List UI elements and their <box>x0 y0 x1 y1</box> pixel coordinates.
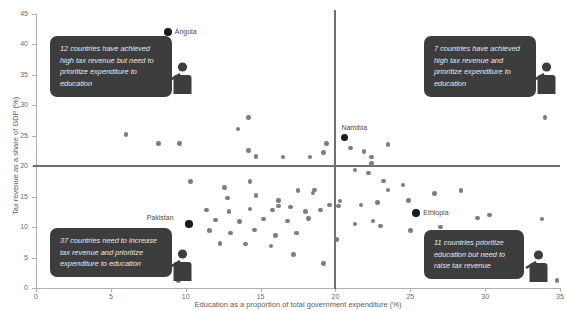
data-point <box>222 185 227 190</box>
point-label-namibia: Namibia <box>341 124 367 131</box>
data-point <box>124 132 129 137</box>
data-point <box>459 188 464 193</box>
x-tick-label: 25 <box>395 293 425 300</box>
data-point <box>381 179 386 184</box>
data-point-angola <box>164 28 172 36</box>
x-tick-mark <box>36 288 37 292</box>
y-tick-label: 0 <box>4 284 28 291</box>
x-axis-line <box>36 288 560 289</box>
data-point <box>228 231 233 236</box>
x-tick-mark <box>560 288 561 292</box>
data-point <box>432 191 437 196</box>
data-point <box>555 278 560 283</box>
data-point <box>281 155 286 160</box>
y-tick-label: 40 <box>4 40 28 47</box>
data-point <box>543 115 548 120</box>
y-tick-label: 35 <box>4 71 28 78</box>
data-point <box>366 171 371 176</box>
data-point <box>308 155 313 160</box>
person-icon <box>524 248 550 282</box>
data-point <box>188 179 193 184</box>
threshold-line-horizontal <box>33 165 560 167</box>
data-point <box>218 241 223 246</box>
x-tick-mark <box>261 288 262 292</box>
y-tick-label: 20 <box>4 162 28 169</box>
data-point <box>475 216 480 221</box>
x-tick-mark <box>186 288 187 292</box>
data-point <box>288 205 293 210</box>
y-tick-mark <box>32 227 36 228</box>
data-point <box>321 150 326 155</box>
data-point <box>336 204 341 209</box>
data-point <box>213 218 218 223</box>
data-point <box>254 154 259 159</box>
y-tick-mark <box>32 197 36 198</box>
data-point <box>204 208 209 213</box>
data-point <box>291 252 296 257</box>
data-point <box>243 242 248 247</box>
data-point <box>207 228 212 233</box>
data-point <box>276 204 281 209</box>
y-tick-label: 5 <box>4 254 28 261</box>
data-point <box>248 207 253 212</box>
data-point <box>487 213 492 218</box>
data-point <box>386 188 391 193</box>
data-point <box>237 219 242 224</box>
data-point <box>246 148 251 153</box>
data-point <box>303 209 308 214</box>
data-point <box>335 237 340 242</box>
data-point <box>371 219 376 224</box>
data-point <box>246 115 251 120</box>
data-point <box>225 196 230 201</box>
data-point <box>236 127 241 132</box>
data-point <box>359 203 364 208</box>
data-point <box>338 199 343 204</box>
data-point <box>276 198 281 203</box>
data-point <box>156 141 161 146</box>
data-point <box>438 225 443 230</box>
person-icon <box>168 60 194 94</box>
data-point <box>296 188 301 193</box>
x-tick-label: 5 <box>96 293 126 300</box>
threshold-line-vertical <box>334 10 336 289</box>
scatter-chart: Education as a proportion of total gover… <box>0 0 567 311</box>
y-tick-label: 45 <box>4 10 28 17</box>
data-point <box>285 219 290 224</box>
data-point <box>353 168 358 173</box>
x-tick-mark <box>485 288 486 292</box>
point-label-angola: Angola <box>175 28 197 35</box>
y-tick-label: 15 <box>4 193 28 200</box>
y-tick-mark <box>32 105 36 106</box>
x-axis-title: Education as a proportion of total gover… <box>36 300 560 309</box>
x-tick-label: 0 <box>21 293 51 300</box>
y-tick-mark <box>32 258 36 259</box>
data-point <box>362 149 367 154</box>
data-point-ethiopia <box>412 209 420 217</box>
data-point <box>375 200 380 205</box>
data-point <box>369 155 374 160</box>
data-point <box>227 209 232 214</box>
data-point <box>406 198 411 203</box>
y-tick-mark <box>32 44 36 45</box>
person-icon <box>168 247 194 281</box>
data-point <box>353 222 358 227</box>
y-tick-mark <box>32 14 36 15</box>
data-point <box>540 217 545 222</box>
data-point <box>408 228 413 233</box>
data-point <box>177 141 182 146</box>
data-point <box>270 208 275 213</box>
point-label-ethiopia: Ethiopia <box>423 209 448 216</box>
data-point <box>348 146 353 151</box>
y-axis-line <box>36 14 37 288</box>
callout-lower-right-text: 11 countries prioritize education but ne… <box>424 230 524 279</box>
x-tick-mark <box>111 288 112 292</box>
y-tick-label: 30 <box>4 101 28 108</box>
y-tick-label: 25 <box>4 132 28 139</box>
data-point <box>269 244 274 249</box>
data-point <box>321 261 326 266</box>
x-tick-label: 10 <box>171 293 201 300</box>
data-point-namibia <box>341 134 349 142</box>
point-label-pakistan: Pakistan <box>147 214 174 221</box>
data-point <box>318 208 323 213</box>
data-point <box>327 203 332 208</box>
